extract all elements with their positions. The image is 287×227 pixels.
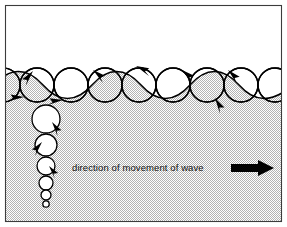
depth-orbital-circle [43,201,49,207]
wave-direction-label: direction of movement of wave [72,162,204,173]
depth-orbital-circle [39,176,53,190]
depth-orbital-circle [41,190,51,200]
wave-diagram-figure: direction of movement of wave [0,0,287,227]
wave-diagram-canvas: direction of movement of wave [0,0,287,227]
